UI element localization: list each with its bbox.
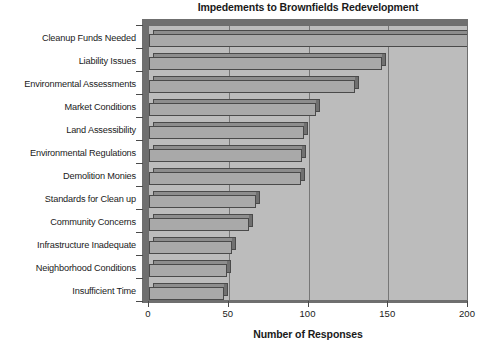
category-label: Infrastructure Inadequate	[0, 240, 136, 250]
bar	[149, 218, 249, 231]
bar-front-face	[149, 172, 301, 185]
category-label: Standards for Clean up	[0, 194, 136, 204]
x-axis-title: Number of Responses	[148, 328, 468, 340]
bar-side-face	[232, 237, 236, 250]
bar-side-face	[227, 260, 231, 273]
x-axis-ticks: 050100150200	[140, 301, 480, 313]
category-label: Liability Issues	[0, 56, 136, 66]
y-axis-tick	[136, 94, 143, 95]
category-label: Market Conditions	[0, 102, 136, 112]
bar-side-face	[256, 191, 260, 204]
bar-front-face	[149, 103, 316, 116]
y-axis-tick	[136, 255, 143, 256]
bar	[149, 103, 316, 116]
bar-front-face	[149, 241, 232, 254]
bar-side-face	[355, 76, 359, 89]
x-axis-tick	[308, 301, 309, 307]
bar	[149, 264, 227, 277]
x-axis-tick	[387, 301, 388, 307]
y-axis-tick	[136, 71, 143, 72]
category-label: Environmental Regulations	[0, 148, 136, 158]
category-label: Cleanup Funds Needed	[0, 33, 136, 43]
y-axis-tick	[136, 209, 143, 210]
category-label: Land Assessibility	[0, 125, 136, 135]
bar-side-face	[382, 53, 386, 66]
category-label: Demolition Monies	[0, 171, 136, 181]
bar-side-face	[304, 122, 308, 135]
x-axis-tick	[467, 301, 468, 307]
x-axis-tick-label: 0	[128, 308, 168, 319]
y-axis-ticks	[136, 19, 148, 309]
x-axis-tick-label: 150	[367, 308, 407, 319]
bar-front-face	[149, 80, 355, 93]
bar-front-face	[149, 264, 227, 277]
x-axis-tick	[148, 301, 149, 307]
y-axis-tick	[136, 186, 143, 187]
y-axis-tick	[136, 117, 143, 118]
y-axis-tick	[136, 163, 143, 164]
bar-front-face	[149, 126, 304, 139]
bar	[149, 195, 256, 208]
y-axis-tick	[136, 140, 143, 141]
bar	[149, 287, 224, 300]
chart-title: Impedements to Brownfields Redevelopment	[148, 1, 468, 13]
category-label: Community Concerns	[0, 217, 136, 227]
x-axis-tick-label: 50	[208, 308, 248, 319]
bar	[149, 149, 302, 162]
bar-side-face	[316, 99, 320, 112]
bar	[149, 34, 468, 47]
bar-side-face	[301, 168, 305, 181]
category-label: Insufficient Time	[0, 286, 136, 296]
bar-front-face	[149, 218, 249, 231]
category-axis: Cleanup Funds NeededLiability IssuesEnvi…	[0, 26, 136, 301]
bar	[149, 241, 232, 254]
bar	[149, 126, 304, 139]
bar	[149, 57, 382, 70]
x-axis-tick-label: 100	[288, 308, 328, 319]
plot-area	[148, 25, 468, 301]
y-axis-tick	[136, 278, 143, 279]
bar-side-face	[249, 214, 253, 227]
x-axis-tick-label: 200	[447, 308, 484, 319]
category-label: Neighborhood Conditions	[0, 263, 136, 273]
bar-side-face	[302, 145, 306, 158]
x-axis-tick	[228, 301, 229, 307]
bar-front-face	[149, 195, 256, 208]
gridline	[388, 26, 389, 300]
bar	[149, 172, 301, 185]
bar-front-face	[149, 34, 468, 47]
y-axis-tick	[136, 25, 143, 26]
bar-front-face	[149, 287, 224, 300]
bar-side-face	[224, 283, 228, 296]
bar-front-face	[149, 57, 382, 70]
category-label: Environmental Assessments	[0, 79, 136, 89]
y-axis-tick	[136, 232, 143, 233]
y-axis-tick	[136, 48, 143, 49]
bar	[149, 80, 355, 93]
bar-front-face	[149, 149, 302, 162]
